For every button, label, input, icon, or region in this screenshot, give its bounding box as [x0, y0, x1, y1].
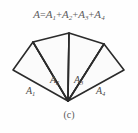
- region-subscript-1: 1: [32, 90, 35, 97]
- region-label-a4: A4: [96, 86, 105, 97]
- equation-lhs: A: [33, 8, 40, 20]
- equation-term-3: A3: [78, 8, 88, 20]
- polygon-svg: [0, 24, 138, 108]
- equation-term-2: A2: [62, 8, 72, 20]
- region-label-a2: A2: [50, 75, 59, 86]
- equation-term-1: A1: [46, 8, 56, 20]
- region-subscript-2: 2: [56, 79, 59, 86]
- subscript-2: 2: [69, 14, 73, 22]
- region-label-a3: A3: [74, 75, 83, 86]
- figure-caption: (c): [0, 108, 138, 121]
- region-label-a1: A1: [26, 86, 35, 97]
- subscript-3: 3: [85, 14, 89, 22]
- region-subscript-4: 4: [102, 90, 105, 97]
- subscript-1: 1: [53, 14, 57, 22]
- region-subscript-3: 3: [80, 79, 83, 86]
- area-equation: A=A1+A2+A3+A4: [0, 7, 138, 23]
- polygon-triangulation-diagram: A1 A2 A3 A4: [0, 24, 138, 108]
- subscript-4: 4: [101, 14, 105, 22]
- figure-container: A=A1+A2+A3+A4 A1 A2 A3 A4 (c): [0, 0, 138, 133]
- diagonal-to-top: [68, 33, 69, 101]
- equation-term-4: A4: [94, 8, 104, 20]
